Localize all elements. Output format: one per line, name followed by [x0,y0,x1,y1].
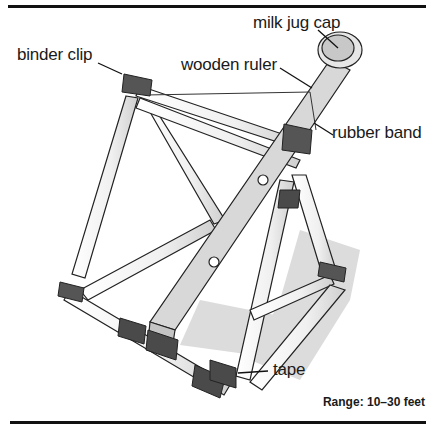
bottom-rule [10,421,426,424]
label-rubber-band: rubber band [332,124,421,142]
label-milk-jug-cap: milk jug cap [253,14,340,32]
label-tape: tape [273,361,305,379]
milk-jug-cap [318,32,362,68]
range-caption: Range: 10–30 feet [323,395,425,409]
label-binder-clip: binder clip [17,46,92,64]
label-wooden-ruler: wooden ruler [181,56,277,74]
